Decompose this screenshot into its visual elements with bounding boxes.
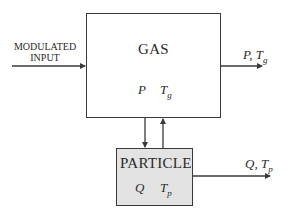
gas-title: GAS (138, 41, 169, 58)
input-label-line2: INPUT (10, 52, 80, 63)
gas-temperature-var: Tg (160, 80, 172, 98)
gas-output-label: P, Tg (243, 45, 268, 63)
particle-q-var: Q (135, 178, 144, 196)
particle-temperature-var: Tp (160, 178, 172, 196)
particle-title: PARTICLE (120, 155, 192, 172)
gas-pressure-var: P (138, 80, 146, 98)
modulated-input-label: MODULATED INPUT (10, 41, 80, 63)
gas-block (86, 13, 221, 118)
input-label-line1: MODULATED (10, 41, 80, 52)
particle-output-label: Q, Tp (245, 154, 273, 172)
